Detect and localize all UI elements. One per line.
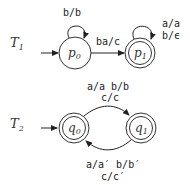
state-p0-label: p0 (68, 46, 81, 61)
edge-q0-q1-label-1: a/a b/b (87, 81, 129, 92)
state-q1-label: q1 (135, 121, 148, 136)
loop-p0-label: b/b (63, 7, 81, 18)
machine-label-t1: T1 (10, 35, 24, 52)
loop-p0 (68, 26, 85, 38)
edge-p0-p1-label: ba/c (96, 36, 120, 47)
machine-label-t2: T2 (10, 116, 24, 133)
loop-p1 (133, 26, 152, 39)
loop-p1-label-1: a/a (162, 18, 180, 29)
edge-q0-q1 (84, 106, 129, 116)
loop-p1-label-2: b/ϵ (162, 30, 180, 41)
edge-q1-q0 (86, 140, 131, 150)
state-p1-label: p1 (134, 46, 147, 61)
edge-q0-q1-label-2: c/c (101, 92, 119, 103)
state-q0-label: q0 (68, 121, 81, 136)
edge-q1-q0-label-2: c/c′ (101, 171, 125, 182)
transducer-diagram: T1 p0 b/b ba/c p1 a/a b/ϵ T2 q0 q1 a/a b… (0, 0, 190, 185)
edge-q1-q0-label-1: a/a′ b/b′ (86, 159, 140, 170)
